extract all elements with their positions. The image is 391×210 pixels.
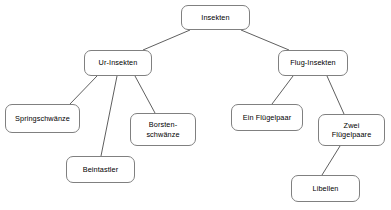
node-libellen[interactable]: Libellen [291,175,360,202]
node-label-borstenschwaenze: Borsten- schwänze [143,120,182,139]
insect-taxonomy-diagram: InsektenUr-InsektenFlug-InsektenSpringsc… [0,0,391,210]
node-label-flug-insekten: Flug-Insekten [287,58,339,67]
node-ein-fluegelpaar[interactable]: Ein Flügelpaar [231,104,303,131]
node-label-beintastler: Beintastler [80,165,122,174]
node-borstenschwaenze[interactable]: Borsten- schwänze [130,113,196,146]
edge-ur-insekten-to-springschwaenze [70,76,97,104]
node-label-springschwaenze: Springschwänze [12,114,73,123]
node-label-ur-insekten: Ur-Insekten [96,58,141,67]
node-label-ein-fluegelpaar: Ein Flügelpaar [240,113,294,122]
node-flug-insekten[interactable]: Flug-Insekten [278,50,348,76]
edge-ur-insekten-to-beintastler [101,76,117,156]
edge-insekten-to-ur-insekten [143,30,190,50]
node-label-insekten: Insekten [198,13,232,22]
node-zwei-fluegelpaare[interactable]: Zwei Flügelpaare [318,114,385,146]
edge-flug-insekten-to-zwei-fluegelpaare [327,76,344,114]
node-insekten[interactable]: Insekten [181,5,250,30]
edge-ur-insekten-to-borstenschwaenze [135,76,155,113]
node-ur-insekten[interactable]: Ur-Insekten [84,50,152,76]
node-label-zwei-fluegelpaare: Zwei Flügelpaare [329,121,375,140]
edge-zwei-fluegelpaare-to-libellen [322,146,340,175]
node-springschwaenze[interactable]: Springschwänze [5,104,80,133]
edge-insekten-to-flug-insekten [241,30,289,50]
edge-flug-insekten-to-ein-fluegelpaar [272,76,293,104]
node-label-libellen: Libellen [310,184,342,193]
node-beintastler[interactable]: Beintastler [66,156,135,183]
